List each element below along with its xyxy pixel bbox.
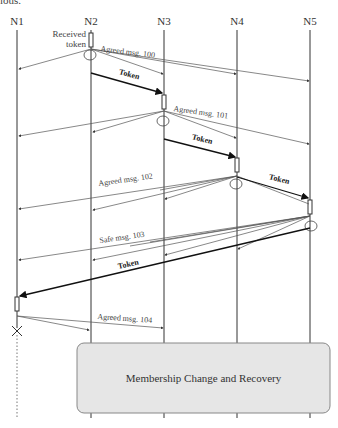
membership-change-label: Membership Change and Recovery [77,343,330,413]
received-token-label: Received token [46,29,86,49]
self-loop-n2 [84,50,96,60]
received-line-2: token [46,39,86,49]
received-line-1: Received [46,29,86,39]
node-label-n3: N3 [157,15,170,27]
node-label-n1: N1 [10,15,23,27]
activation-n3 [162,95,166,109]
cut-off-text: ious. [0,0,21,6]
activation-n2 [89,33,93,47]
node-label-n2: N2 [84,15,97,27]
self-loop-n5 [305,221,317,231]
activation-n5 [308,200,312,214]
activation-n4 [235,158,239,172]
node-label-n5: N5 [303,15,316,27]
activation-n1 [15,297,19,311]
self-loop-n3 [157,116,169,126]
self-loop-n4 [230,179,242,189]
node-label-n4: N4 [230,15,243,27]
